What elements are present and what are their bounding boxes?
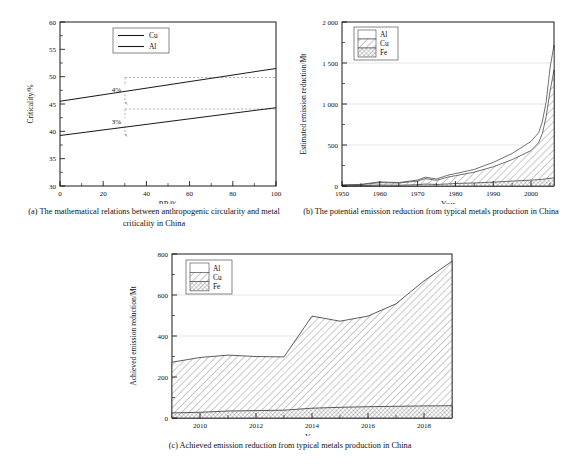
panel-a-svg: 30 35 40 45 50 55 60 Criticality/% 0 20 …	[18, 8, 290, 204]
panel-b-ytick-1000: 1 000	[322, 101, 338, 109]
panel-b-xtick-2000: 2000	[524, 190, 539, 198]
panel-c-xtick-2016: 2016	[361, 422, 376, 430]
panel-a-xtick-80: 80	[229, 190, 237, 198]
panel-a-legend-label-cu: Cu	[149, 31, 158, 40]
panel-a-xtick-60: 60	[186, 190, 194, 198]
caption-c: (c) Achieved emission reduction from typ…	[60, 440, 520, 452]
panel-b-legend-swatch-al	[358, 30, 376, 39]
panel-c-legend: Al Cu Fe	[186, 260, 232, 294]
panel-c-ytick-200: 200	[158, 374, 169, 382]
panel-a-legend-label-al: Al	[149, 42, 156, 51]
panel-c-legend-swatch-cu	[190, 272, 209, 281]
panel-c-ytick-400: 400	[158, 333, 169, 341]
panel-c-legend-label-al: Al	[213, 264, 220, 273]
panel-a-x-axis-title: RR/%	[159, 200, 178, 204]
panel-b-legend-label-cu: Cu	[380, 39, 389, 48]
panel-c-legend-label-cu: Cu	[213, 273, 222, 282]
panel-b-legend: Al Cu Fe	[354, 27, 398, 60]
panel-c-legend-swatch-fe	[190, 282, 209, 291]
panel-c-legend-label-fe: Fe	[213, 282, 221, 291]
panel-b-legend-label-al: Al	[380, 30, 387, 39]
panel-a-ytick-30: 30	[49, 183, 57, 191]
panel-b-y-axis-title: Estimated emission reduction/Mt	[299, 53, 308, 155]
panel-b-xtick-1980: 1980	[448, 190, 463, 198]
panel-c-achieved-reduction-chart: 0 200 400 600 800 Achieved emission redu…	[120, 240, 472, 436]
panel-a-legend: Cu Al	[113, 28, 169, 53]
panel-a-ytick-40: 40	[49, 128, 57, 136]
panel-c-xtick-2010: 2010	[193, 422, 208, 430]
caption-b: (b) The potential emission reduction fro…	[292, 206, 570, 218]
panel-b-xtick-1990: 1990	[486, 190, 501, 198]
panel-a-ytick-55: 55	[49, 46, 57, 54]
panel-a-label-3pct: 3%	[112, 118, 122, 126]
panel-b-estimated-reduction-chart: 0 500 1 000 1 500 2 000 Estimated emissi…	[292, 8, 570, 204]
panel-b-legend-swatch-cu	[358, 39, 376, 48]
panel-c-y-axis-title: Achieved emission reduction/Mt	[129, 285, 138, 385]
panel-c-xtick-2014: 2014	[305, 422, 320, 430]
panel-b-xtick-1970: 1970	[411, 190, 426, 198]
panel-a-xtick-40: 40	[143, 190, 151, 198]
panel-c-xtick-2018: 2018	[417, 422, 432, 430]
panel-a-ytick-35: 35	[49, 155, 57, 163]
panel-c-svg: 0 200 400 600 800 Achieved emission redu…	[120, 240, 472, 436]
panel-a-ytick-60: 60	[49, 19, 57, 27]
panel-a-ytick-45: 45	[49, 101, 57, 109]
caption-a: (a) The mathematical relations between a…	[18, 206, 290, 229]
panel-a-xtick-20: 20	[100, 190, 108, 198]
panel-c-y-axis: 0 200 400 600 800 Achieved emission redu…	[129, 251, 177, 423]
panel-b-legend-label-fe: Fe	[380, 48, 388, 57]
panel-b-ytick-2000: 2 000	[322, 19, 338, 27]
panel-a-y-axis: 30 35 40 45 50 55 60 Criticality/%	[26, 19, 65, 191]
panel-a-ytick-50: 50	[49, 73, 57, 81]
panel-b-x-axis-title: Year	[441, 200, 455, 204]
panel-b-ytick-1500: 1 500	[322, 60, 338, 68]
panel-b-svg: 0 500 1 000 1 500 2 000 Estimated emissi…	[292, 8, 570, 204]
panel-b-xtick-1950: 1950	[335, 190, 350, 198]
panel-a-xtick-0: 0	[58, 190, 62, 198]
panel-c-legend-swatch-al	[190, 263, 209, 272]
panel-c-ytick-600: 600	[158, 292, 169, 300]
panel-b-y-axis: 0 500 1 000 1 500 2 000 Estimated emissi…	[299, 19, 347, 191]
panel-b-legend-swatch-fe	[358, 48, 376, 57]
panel-c-xtick-2012: 2012	[249, 422, 264, 430]
panel-a-xtick-100: 100	[271, 190, 282, 198]
panel-a-y-axis-title: Criticality/%	[26, 84, 35, 124]
panel-c-ytick-800: 800	[158, 251, 169, 259]
panel-a-criticality-chart: 30 35 40 45 50 55 60 Criticality/% 0 20 …	[18, 8, 290, 204]
panel-c-ytick-0: 0	[165, 415, 169, 423]
panel-c-x-axis-title: Year	[305, 433, 319, 436]
panel-b-xtick-1960: 1960	[373, 190, 388, 198]
panel-b-ytick-500: 500	[328, 142, 339, 150]
